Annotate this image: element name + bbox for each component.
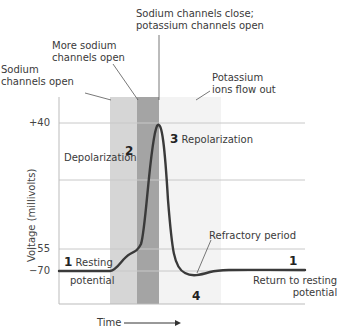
y-axis-label: Voltage (millivolts) bbox=[26, 169, 37, 262]
annotation-return: Return to resting potential bbox=[253, 275, 337, 299]
x-axis-label: Time bbox=[97, 317, 121, 329]
annotation-line: ions flow out bbox=[212, 84, 276, 96]
annotation-line: Sodium bbox=[1, 64, 74, 76]
phase-1-label-line2: potential bbox=[70, 275, 114, 287]
annotation-refractory: Refractory period bbox=[209, 230, 296, 242]
annotation-line: channels open bbox=[1, 76, 74, 88]
phase-2-number: 2 bbox=[125, 145, 133, 157]
phase-3-label: Repolarization bbox=[182, 134, 253, 145]
annotation-line: More sodium bbox=[52, 40, 125, 52]
annotation-potassium-out: Potassium ions flow out bbox=[212, 72, 276, 96]
phase-4-number: 4 bbox=[192, 290, 200, 302]
phase-1: 1 Resting bbox=[64, 256, 113, 269]
phase-3-number: 3 bbox=[170, 132, 178, 146]
phase-1-label: Resting bbox=[76, 257, 113, 268]
annotation-sodium-close: Sodium channels close; potassium channel… bbox=[136, 8, 264, 32]
annotation-line: Potassium bbox=[212, 72, 276, 84]
annotation-line: channels open bbox=[52, 52, 125, 64]
leader-sodium-open bbox=[85, 93, 111, 100]
annotation-line: potential bbox=[253, 287, 337, 299]
annotation-line: Return to resting bbox=[253, 275, 337, 287]
annotation-sodium-open: Sodium channels open bbox=[1, 64, 74, 88]
sodium-open-band bbox=[110, 97, 137, 304]
time-arrowhead-icon bbox=[175, 320, 181, 326]
annotation-line: Sodium channels close; bbox=[136, 8, 264, 20]
phase-3: 3 Repolarization bbox=[170, 133, 253, 146]
phase-1-number: 1 bbox=[64, 255, 72, 269]
annotation-line: potassium channels open bbox=[136, 20, 264, 32]
annotation-more-sodium: More sodium channels open bbox=[52, 40, 125, 64]
leader-more-sodium bbox=[113, 64, 138, 100]
phase-1-return-number: 1 bbox=[289, 255, 297, 267]
tick-minus70: −70 bbox=[10, 265, 50, 276]
tick-plus40: +40 bbox=[10, 117, 50, 128]
